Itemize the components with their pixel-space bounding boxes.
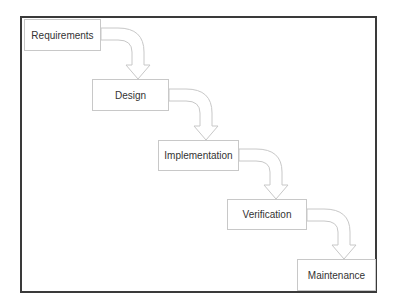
step-label: Maintenance (308, 270, 365, 281)
step-implementation: Implementation (158, 140, 239, 171)
step-verification: Verification (227, 199, 307, 230)
step-design: Design (92, 79, 169, 111)
waterfall-diagram: Requirements Design Implementation Verif… (0, 0, 401, 308)
curved-arrow-icon (101, 28, 150, 79)
step-label: Requirements (31, 30, 93, 41)
step-label: Implementation (164, 150, 232, 161)
curved-arrow-icon (239, 149, 288, 199)
step-label: Design (115, 90, 146, 101)
step-requirements: Requirements (24, 19, 101, 51)
curved-arrow-icon (307, 209, 356, 259)
step-label: Verification (243, 209, 292, 220)
step-maintenance: Maintenance (297, 259, 376, 291)
curved-arrow-icon (169, 89, 218, 140)
